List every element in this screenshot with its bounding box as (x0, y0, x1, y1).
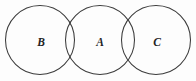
venn-diagram-figure: B A C (0, 0, 196, 81)
circle-c-label: C (153, 36, 161, 48)
circle-b-label: B (36, 36, 45, 48)
circle-a-label: A (95, 36, 104, 48)
venn-diagram-canvas: B A C (0, 0, 196, 81)
